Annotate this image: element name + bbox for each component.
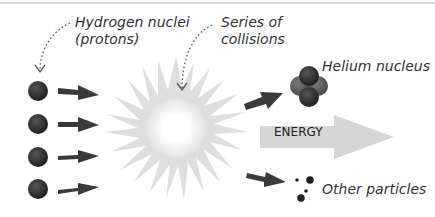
helium-arrow <box>244 92 283 110</box>
energy-label: ENERGY <box>274 125 323 139</box>
collisions-label: Series of collisions <box>221 14 285 48</box>
other-particles-label: Other particles <box>322 181 426 198</box>
other-arrow <box>246 172 286 187</box>
hydrogen-label-line1: Hydrogen nuclei <box>75 14 190 31</box>
other-particles <box>295 176 314 202</box>
collisions-label-line1: Series of <box>221 14 285 31</box>
protons <box>28 81 48 199</box>
hydrogen-label-line2: (protons) <box>75 31 190 48</box>
input-arrows <box>58 85 99 195</box>
helium-label: Helium nucleus <box>322 58 430 75</box>
collisions-label-line2: collisions <box>221 31 285 48</box>
hydrogen-leader <box>40 23 70 70</box>
hydrogen-label: Hydrogen nuclei (protons) <box>75 14 190 48</box>
collision-burst <box>104 56 248 200</box>
